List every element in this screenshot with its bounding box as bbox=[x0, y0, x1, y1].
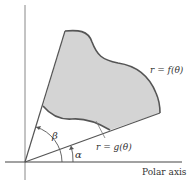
polar-region-diagram: r = f(θ) r = g(θ) Polar axis β α bbox=[0, 0, 194, 184]
label-polar-axis: Polar axis bbox=[142, 167, 187, 177]
label-inner-curve: r = g(θ) bbox=[96, 142, 132, 152]
label-beta: β bbox=[51, 130, 58, 141]
label-outer-curve: r = f(θ) bbox=[150, 65, 184, 75]
beta-arrowhead-icon bbox=[36, 126, 41, 130]
label-alpha: α bbox=[75, 149, 82, 160]
alpha-arrowhead-icon bbox=[69, 146, 74, 150]
